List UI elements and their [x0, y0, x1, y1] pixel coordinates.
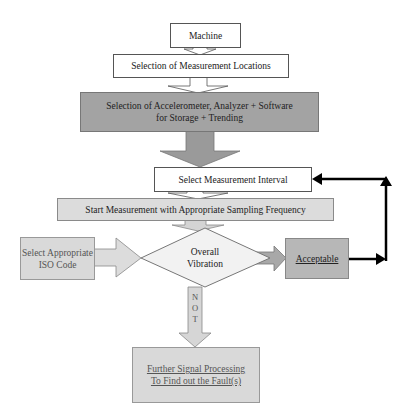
measurement-interval-label: Select Measurement Interval — [178, 174, 287, 186]
machine-label: Machine — [189, 30, 222, 42]
arrow-locations-to-equipment — [168, 77, 228, 93]
further-processing-line1: Further Signal Processing — [147, 363, 245, 375]
acceptable-node: Acceptable — [285, 238, 349, 279]
arrow-equipment-to-interval — [160, 131, 240, 167]
machine-node: Machine — [170, 23, 241, 48]
further-processing-node: Further Signal Processing To Find out th… — [132, 347, 260, 403]
iso-code-line1: Select Appropriate — [22, 247, 93, 259]
iso-code-node: Select Appropriate ISO Code — [20, 237, 95, 280]
measurement-locations-label: Selection of Measurement Locations — [131, 60, 271, 72]
arrow-start-to-decision — [172, 220, 224, 231]
not-letter-t: T — [189, 314, 201, 325]
start-measurement-label: Start Measurement with Appropriate Sampl… — [85, 204, 305, 216]
equipment-selection-node: Selection of Accelerometer, Analyzer + S… — [80, 92, 319, 132]
not-letter-o: O — [189, 303, 201, 314]
feedback-arrowhead-up — [380, 176, 392, 186]
further-processing-line2: To Find out the Fault(s) — [151, 375, 241, 387]
feedback-arrowhead-left — [312, 173, 322, 185]
acceptable-label: Acceptable — [296, 253, 339, 265]
measurement-locations-node: Selection of Measurement Locations — [113, 54, 289, 78]
not-label: N O T — [189, 292, 201, 325]
iso-code-line2: ISO Code — [39, 259, 77, 271]
feedback-arrowhead-right — [376, 253, 386, 265]
decision-line2: Vibration — [165, 258, 245, 270]
decision-label: Overall Vibration — [165, 246, 245, 270]
start-measurement-node: Start Measurement with Appropriate Sampl… — [57, 198, 334, 221]
arrow-iso-to-decision — [94, 238, 141, 277]
decision-line1: Overall — [165, 246, 245, 258]
measurement-interval-node: Select Measurement Interval — [154, 167, 312, 192]
equipment-selection-line1: Selection of Accelerometer, Analyzer + S… — [106, 100, 292, 112]
equipment-selection-line2: for Storage + Trending — [156, 112, 243, 124]
not-letter-n: N — [189, 292, 201, 303]
